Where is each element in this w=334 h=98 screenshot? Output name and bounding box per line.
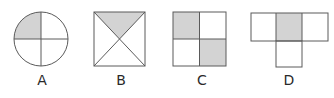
label-b: B [106,72,136,88]
figure-d-t-shape [251,13,328,67]
label-c: C [187,72,217,88]
shaded-cell-top-middle [276,13,302,41]
label-d: D [274,72,304,88]
shaded-triangle [94,12,145,39]
figure-b-square-diagonals [94,12,145,66]
shaded-cell-top-left [173,12,200,39]
label-a: A [27,72,57,88]
shaded-cell-bottom-right [200,39,227,66]
figure-a-circle [14,12,68,66]
figure-c-grid [173,12,226,66]
